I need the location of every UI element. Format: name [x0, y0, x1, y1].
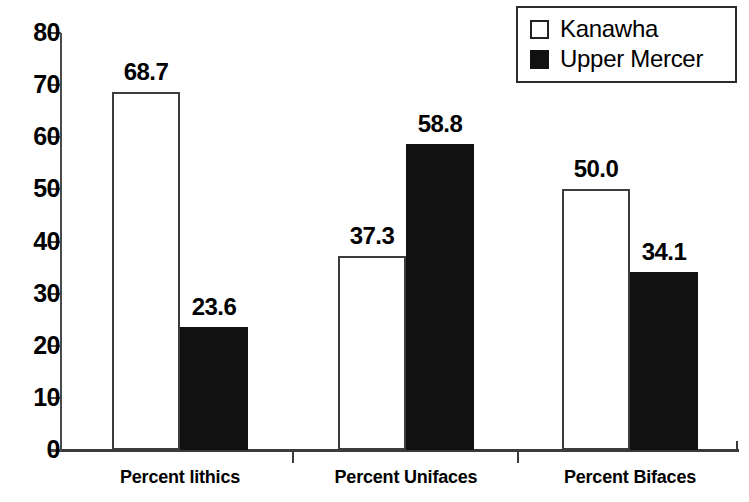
bar-value-label: 50.0 — [556, 157, 636, 181]
bar-upper-mercer-percent-unifaces — [406, 144, 474, 450]
y-axis-tick-label: 80 — [33, 20, 60, 45]
bar-value-label: 58.8 — [400, 112, 480, 136]
chart-legend: Kanawha Upper Mercer — [516, 6, 737, 83]
legend-swatch-open-square-icon — [530, 20, 549, 39]
legend-item-upper-mercer: Upper Mercer — [530, 44, 725, 74]
bar-value-label: 68.7 — [106, 60, 186, 84]
bar-upper-mercer-percent-bifaces — [630, 272, 698, 450]
y-axis-tick-label: 20 — [33, 333, 60, 358]
y-axis-tick-label: 50 — [33, 176, 60, 201]
x-axis-end-tick — [736, 441, 738, 450]
y-axis-tick-label: 10 — [33, 385, 60, 410]
legend-swatch-filled-square-icon — [530, 50, 549, 69]
x-axis-category-label: Percent lithics — [80, 468, 280, 486]
bar-kanawha-percent-lithics — [112, 92, 180, 450]
x-axis-category-label: Percent Unifaces — [306, 468, 506, 486]
y-axis-tick-label: 0 — [47, 437, 60, 462]
bar-upper-mercer-percent-lithics — [180, 327, 248, 450]
bar-value-label: 34.1 — [624, 240, 704, 264]
legend-label-kanawha: Kanawha — [560, 17, 658, 41]
legend-item-kanawha: Kanawha — [530, 14, 725, 44]
x-axis-category-label: Percent Bifaces — [530, 468, 730, 486]
bar-kanawha-percent-unifaces — [338, 256, 406, 450]
x-axis-tick — [292, 452, 294, 463]
bar-chart: 01020304050607080 68.737.350.023.658.834… — [0, 0, 749, 502]
y-axis-tick-label: 60 — [33, 124, 60, 149]
y-axis-tick-label: 30 — [33, 281, 60, 306]
legend-label-upper-mercer: Upper Mercer — [560, 47, 703, 71]
y-axis-tick-label: 70 — [33, 72, 60, 97]
y-axis-tick-label: 40 — [33, 229, 60, 254]
x-axis-tick — [517, 452, 519, 463]
bar-value-label: 37.3 — [332, 224, 412, 248]
bar-value-label: 23.6 — [174, 295, 254, 319]
bar-kanawha-percent-bifaces — [562, 189, 630, 450]
